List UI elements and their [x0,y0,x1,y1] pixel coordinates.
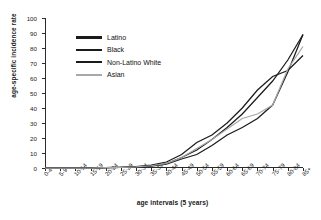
x-axis-title: age intervals (5 years) [0,199,321,206]
legend-item-non-latino-white: Non-Latino White [76,59,161,66]
legend-swatch-icon [76,61,102,63]
chart-figure: age-specific incidence rate 010203040506… [0,0,321,220]
y-axis-title: age-specific incidence rate [10,0,17,121]
y-tick-label: 20 [30,135,37,142]
y-tick-label: 90 [30,30,37,37]
legend-item-asian: Asian [76,71,161,78]
y-tick-label: 50 [30,90,37,97]
y-tick-label: 40 [30,105,37,112]
legend-swatch-icon [76,49,102,51]
y-tick-label: 30 [30,120,37,127]
legend-item-latino: Latino [76,34,161,41]
legend-swatch-icon [76,36,102,38]
y-tick-label: 60 [30,75,37,82]
y-tick-label: 10 [30,150,37,157]
y-tick-label: 0 [34,165,37,172]
legend-swatch-icon [76,74,102,76]
chart-legend: LatinoBlackNon-Latino WhiteAsian [76,34,161,78]
legend-item-label: Non-Latino White [107,59,161,66]
legend-item-label: Black [107,46,124,53]
legend-item-black: Black [76,46,161,53]
legend-item-label: Latino [107,34,126,41]
y-tick-label: 70 [30,60,37,67]
legend-item-label: Asian [107,71,125,78]
y-tick-label: 80 [30,45,37,52]
y-tick-label: 100 [27,15,37,22]
